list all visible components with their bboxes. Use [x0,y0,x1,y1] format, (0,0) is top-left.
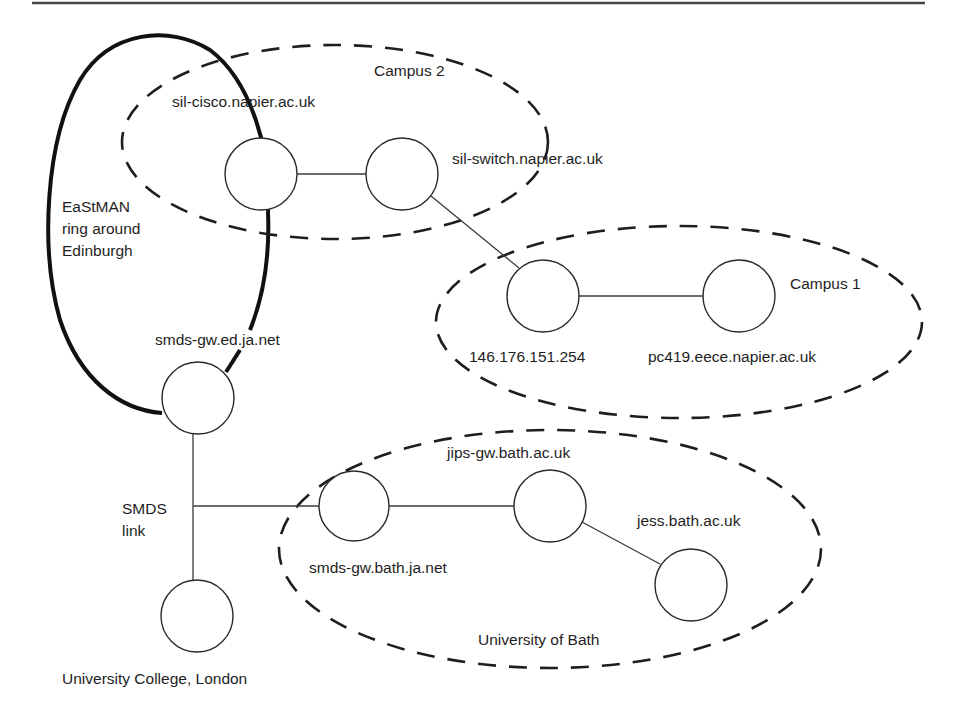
link-switch-146 [431,196,519,268]
label-smds-gw-bath: smds-gw.bath.ja.net [309,559,448,576]
label-pc419: pc419.eece.napier.ac.uk [648,348,816,365]
label-ucl: University College, London [62,670,247,687]
label-bath: University of Bath [478,631,599,648]
node-smds-gw-bath[interactable] [319,471,389,541]
node-jess[interactable] [655,549,727,621]
node-146-176-151-254[interactable] [507,260,579,332]
node-smds-gw-ed[interactable] [162,362,234,434]
label-ring-line3: Edinburgh [62,242,133,259]
label-campus2: Campus 2 [374,62,445,79]
zone-campus2 [122,45,548,239]
label-ring-line2: ring around [62,220,140,237]
node-sil-switch[interactable] [366,138,438,210]
label-146: 146.176.151.254 [469,348,586,365]
label-campus1: Campus 1 [790,275,861,292]
node-ucl[interactable] [161,580,233,652]
network-route-diagram: Campus 2 Campus 1 University of Bath EaS… [0,0,962,714]
label-smds-gw-ed: smds-gw.ed.ja.net [155,331,281,348]
label-sil-cisco: sil-cisco.napier.ac.uk [172,93,315,110]
zone-campus1 [436,226,922,418]
eastman-ring-right-upper [250,212,268,330]
eastman-ring-right-lower [226,350,240,372]
label-jips-gw: jips-gw.bath.ac.uk [446,444,570,461]
label-jess: jess.bath.ac.uk [636,512,741,529]
node-jips-gw[interactable] [514,470,586,542]
label-ring-line1: EaStMAN [62,198,130,215]
node-pc419[interactable] [703,260,775,332]
label-smds-line1: SMDS [122,500,167,517]
label-sil-switch: sil-switch.napier.ac.uk [452,150,603,167]
label-smds-line2: link [122,522,146,539]
node-sil-cisco[interactable] [225,138,297,210]
nodes [161,138,775,652]
